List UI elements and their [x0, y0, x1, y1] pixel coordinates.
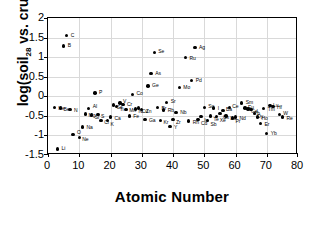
y-axis-tick: [44, 96, 48, 97]
x-axis-tick: [48, 153, 49, 157]
y-axis-tick: [44, 77, 48, 78]
x-axis-title: Atomic Number: [47, 188, 297, 205]
data-point-rb: [162, 108, 165, 111]
data-point-label-re: Re: [286, 116, 292, 121]
data-point-label-ag: Ag: [199, 45, 205, 50]
y-axis-tick-label: -1.5: [25, 149, 44, 160]
x-axis-tick: [236, 153, 237, 157]
data-point-in: [199, 115, 202, 118]
data-point-ce: [228, 106, 231, 109]
data-point-label-ti: Ti: [120, 107, 124, 112]
data-point-label-ge: Ge: [152, 83, 159, 88]
data-point-nb: [174, 111, 177, 114]
data-point-label-p: P: [99, 90, 102, 95]
y-axis-tick: [44, 116, 48, 117]
x-axis-tick-label: 50: [197, 160, 209, 171]
x-axis-tick-label: 0: [44, 160, 50, 171]
data-point-br: [156, 106, 159, 109]
data-point-label-be: Be: [64, 107, 70, 112]
data-point-label-sr: Sr: [171, 99, 176, 104]
x-axis-tick-label: 20: [103, 160, 115, 171]
data-point-ba: [221, 109, 224, 112]
data-point-label-sb: Sb: [210, 122, 216, 127]
data-point-label-b: B: [68, 43, 71, 48]
data-point-fe: [128, 114, 131, 117]
x-axis-tick: [267, 153, 268, 157]
data-point-er: [259, 122, 262, 125]
x-axis-tick: [111, 153, 112, 157]
y-axis-tick-label: 2: [38, 12, 44, 23]
data-point-label-o: O: [77, 130, 81, 135]
y-axis-title-sub1: 28: [24, 48, 33, 57]
y-axis-title: log(soil28 vs. crust28): [15, 0, 34, 119]
data-point-i: [212, 106, 215, 109]
data-point-co: [131, 93, 134, 96]
data-point-o: [71, 133, 74, 136]
data-point-nd: [234, 115, 237, 118]
x-axis-tick: [142, 153, 143, 157]
plot-area: LiBCNONeNaMgAlSiSPClKCaScTiVCrMnFeCoNiCu…: [47, 17, 297, 154]
data-point-cs: [218, 112, 221, 115]
data-point-label-hf: Hf: [277, 105, 282, 110]
data-point-ca: [109, 115, 112, 118]
data-point-sb: [206, 119, 209, 122]
y-gridline: [48, 38, 296, 39]
data-point-label-i: I: [218, 106, 219, 111]
data-point-label-y: Y: [174, 125, 177, 130]
data-point-label-n: N: [74, 108, 78, 113]
x-axis-tick-label: 70: [260, 160, 272, 171]
y-axis-tick: [44, 135, 48, 136]
data-point-label-zr: Zr: [176, 120, 181, 125]
data-point-label-yb: Yb: [271, 131, 277, 136]
data-point-mo: [178, 86, 181, 89]
data-point-la: [224, 114, 227, 117]
y-axis-title-mid: vs. crust: [15, 0, 31, 48]
data-point-be: [59, 106, 62, 109]
data-point-zr: [171, 118, 174, 121]
data-point-ge: [146, 84, 149, 87]
data-point-ho: [256, 115, 259, 118]
y-axis-tick: [44, 154, 48, 155]
data-point-cr: [121, 103, 124, 106]
data-point-ag: [193, 46, 196, 49]
data-point-label-li: Li: [61, 146, 65, 151]
data-point-mn: [124, 108, 127, 111]
data-point-y: [168, 125, 171, 128]
data-point-label-al: Al: [93, 104, 97, 109]
data-point-label-pd: Pd: [196, 78, 202, 83]
y-axis-tick-label: 0: [38, 90, 44, 101]
y-gridline: [48, 77, 296, 78]
data-point-label-co: Co: [136, 91, 142, 96]
data-point-label-nd: Nd: [240, 116, 246, 121]
data-point-rh: [187, 119, 190, 122]
data-point-p: [93, 91, 96, 94]
data-point-label-k: K: [110, 122, 113, 127]
data-point-pd: [190, 79, 193, 82]
data-point-label-nb: Nb: [180, 110, 186, 115]
data-point-label-c: C: [71, 33, 75, 38]
x-axis-tick: [173, 153, 174, 157]
data-point-b: [62, 44, 65, 47]
data-point-label-cr: Cr: [127, 102, 132, 107]
y-axis-tick: [44, 18, 48, 19]
x-axis-tick: [79, 153, 80, 157]
data-point-label-rb: Rb: [168, 108, 174, 113]
data-point-se: [153, 51, 156, 54]
data-point-label-ce: Ce: [232, 104, 238, 109]
data-point-label-mo: Mo: [183, 85, 190, 90]
data-point-kr: [159, 119, 162, 122]
x-axis-tick-label: 10: [72, 160, 84, 171]
data-point-label-zn: Zn: [146, 109, 152, 114]
data-point-na: [81, 125, 84, 128]
data-point-sn: [203, 106, 206, 109]
data-point-label-ca: Ca: [115, 116, 121, 121]
data-point-label-s: S: [101, 114, 104, 119]
data-point-as: [149, 72, 152, 75]
data-point-sr: [165, 101, 168, 104]
data-point-mg: [84, 112, 87, 115]
data-point-te: [209, 114, 212, 117]
x-axis-tick-label: 60: [228, 160, 240, 171]
data-point-re: [281, 115, 284, 118]
data-point-label-fe: Fe: [133, 114, 139, 119]
data-point-label-kr: Kr: [164, 120, 169, 125]
